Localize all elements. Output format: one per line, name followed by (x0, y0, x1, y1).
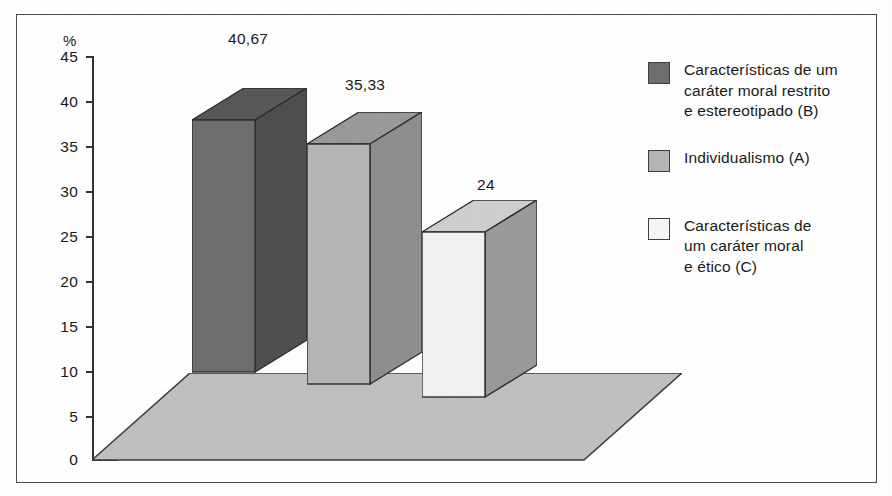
legend-item-B: Características de um caráter moral rest… (648, 60, 880, 122)
bar-3-series-C (422, 200, 537, 405)
y-tick-label-25: 25 (38, 229, 78, 245)
legend-label-C-line1: Características de (684, 216, 812, 237)
chart-legend: Características de um caráter moral rest… (648, 60, 880, 303)
y-tick-45 (86, 56, 93, 58)
y-tick-35 (86, 146, 93, 148)
y-tick-label-30: 30 (38, 184, 78, 200)
legend-item-A: Individualismo (A) (648, 148, 880, 172)
y-tick-label-45: 45 (38, 49, 78, 65)
y-tick-20 (86, 281, 93, 283)
y-tick-label-20: 20 (38, 274, 78, 290)
legend-label-A: Individualismo (A) (684, 148, 810, 169)
y-tick-label-10: 10 (38, 364, 78, 380)
legend-label-A-line1: Individualismo (A) (684, 148, 810, 169)
bar-2-value-label: 35,33 (345, 76, 385, 94)
legend-label-C-line3: e ético (C) (684, 257, 812, 278)
bar-1-series-B (192, 88, 307, 380)
y-tick-15 (86, 326, 93, 328)
y-tick-40 (86, 101, 93, 103)
legend-label-C: Características de um caráter moral e ét… (684, 216, 812, 278)
legend-label-C-line2: um caráter moral (684, 236, 812, 257)
y-tick-label-5: 5 (38, 409, 78, 425)
legend-label-B-line2: caráter moral restrito (684, 81, 838, 102)
legend-label-B-line3: e estereotipado (B) (684, 101, 838, 122)
y-tick-label-0: 0 (38, 452, 78, 468)
legend-item-C: Características de um caráter moral e ét… (648, 216, 880, 278)
y-axis-unit-label: % (63, 32, 76, 49)
y-tick-30 (86, 191, 93, 193)
legend-label-B: Características de um caráter moral rest… (684, 60, 838, 122)
y-tick-label-15: 15 (38, 319, 78, 335)
legend-label-B-line1: Características de um (684, 60, 838, 81)
bar-2-series-A (307, 112, 422, 392)
bar-3-value-label: 24 (477, 176, 495, 194)
bar-1-value-label: 40,67 (228, 30, 268, 48)
cut-off-footer-text (28, 487, 548, 496)
legend-swatch-medium-gray-icon (648, 150, 670, 172)
y-tick-label-35: 35 (38, 139, 78, 155)
y-tick-label-40: 40 (38, 94, 78, 110)
legend-swatch-white-icon (648, 218, 670, 240)
y-tick-25 (86, 236, 93, 238)
legend-swatch-dark-gray-icon (648, 62, 670, 84)
